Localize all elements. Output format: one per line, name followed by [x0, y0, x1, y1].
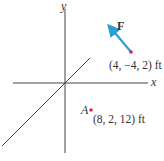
- point-a-label: A: [81, 104, 88, 116]
- y-axis-label: y: [61, 0, 66, 12]
- point-a-coordinates: (8, 2, 12) ft: [93, 114, 145, 126]
- force-tail-coordinates: (4, −4, 2) ft: [109, 60, 162, 72]
- force-label: F: [117, 20, 124, 32]
- point-a: [89, 108, 93, 112]
- coordinate-diagram: [0, 0, 164, 161]
- x-axis-label: x: [151, 76, 156, 88]
- z-axis: [2, 58, 90, 146]
- force-tail-point: [129, 50, 133, 54]
